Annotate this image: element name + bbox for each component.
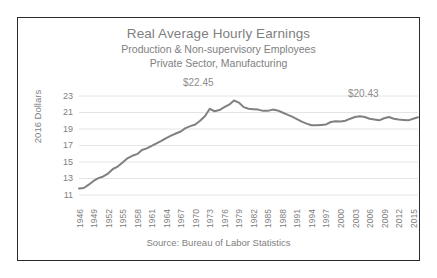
x-tick-label: 2003	[352, 209, 361, 228]
y-tick-label: 23	[51, 92, 73, 101]
x-tick-label: 1982	[250, 209, 259, 228]
x-tick-label: 2000	[337, 209, 346, 228]
series-line-real-average-hourly-earnings	[79, 101, 418, 189]
x-tick-label: 1952	[105, 209, 114, 228]
y-tick-label: 19	[51, 125, 73, 134]
gridlines	[79, 96, 418, 195]
x-tick-label: 1985	[264, 209, 273, 228]
annotation-latest-value: $20.43	[348, 88, 379, 99]
x-tick-label: 2009	[381, 209, 390, 228]
y-tick-label: 17	[51, 141, 73, 150]
x-tick-label: 1964	[163, 209, 172, 228]
x-tick-label: 1970	[192, 209, 201, 228]
x-tick-label: 1946	[76, 209, 85, 228]
x-tick-label: 1979	[235, 209, 244, 228]
source-note: Source: Bureau of Labor Statistics	[18, 237, 419, 248]
y-tick-label: 13	[51, 174, 73, 183]
x-tick-label: 1955	[119, 209, 128, 228]
x-tick-label: 1994	[308, 209, 317, 228]
x-tick-label: 1997	[322, 209, 331, 228]
x-tick-label: 1991	[293, 209, 302, 228]
x-tick-label: 1967	[177, 209, 186, 228]
y-axis-title: 2016 Dollars	[32, 77, 43, 157]
x-tick-label: 1958	[134, 209, 143, 228]
y-tick-label: 11	[51, 191, 73, 200]
annotation-peak-value: $22.45	[183, 77, 214, 88]
y-tick-label: 15	[51, 158, 73, 167]
x-tick-label: 1961	[148, 209, 157, 228]
x-tick-label: 1976	[221, 209, 230, 228]
chart-figure: Real Average Hourly Earnings Production …	[17, 17, 420, 261]
plot-area: 2016 Dollars 11131517192123 194619491952…	[18, 18, 421, 262]
x-tick-label: 1973	[206, 209, 215, 228]
x-tick-label: 2012	[395, 209, 404, 228]
x-tick-label: 2006	[366, 209, 375, 228]
x-tick-label: 1949	[90, 209, 99, 228]
y-tick-label: 21	[51, 108, 73, 117]
x-tick-label: 1988	[279, 209, 288, 228]
x-tick-label: 2015	[410, 209, 419, 228]
